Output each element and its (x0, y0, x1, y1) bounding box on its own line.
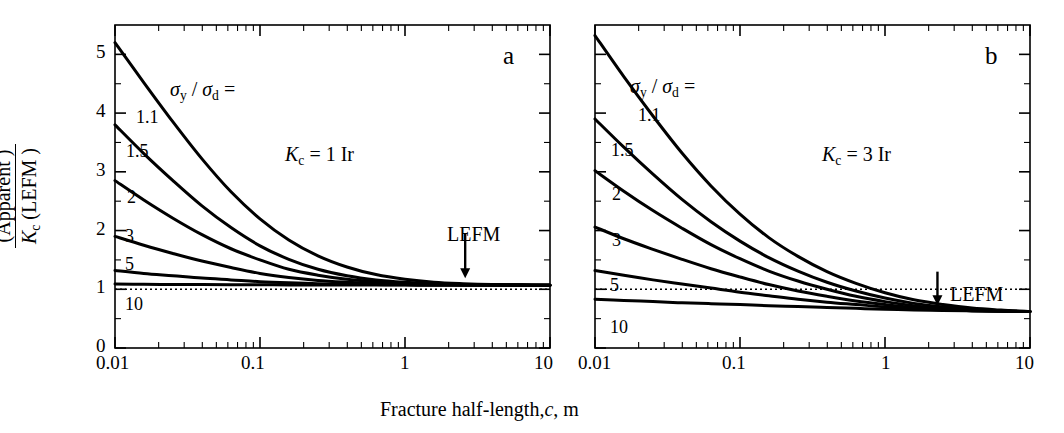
panel-a-xtick-1: 0.1 (241, 352, 265, 374)
panel-a-legend-title: σy / σd = (170, 78, 235, 104)
panel-b-arrow-label: LEFM (950, 283, 1003, 306)
panel-a-xtick-2: 1 (400, 352, 410, 374)
figure-container: Kα (Apparent ) Kc (LEFM ) Fracture half-… (0, 0, 1064, 433)
panel-b-label: b (985, 42, 998, 70)
panel-b-annotation: Kc = 3 Ir (822, 143, 891, 169)
y-axis-numerator: Kα (Apparent ) (0, 144, 15, 248)
panel-a-curve-label-2: 2 (127, 187, 136, 208)
panel-b-curve-label-1: 1.5 (611, 140, 634, 161)
panel-b-xtick-3: 10 (1015, 352, 1034, 374)
panel-a-curve-label-4: 5 (125, 254, 134, 275)
panel-a-ytick-1: 1 (96, 276, 106, 298)
y-axis-label: Kα (Apparent ) Kc (LEFM ) (0, 144, 44, 248)
panel-a-curve-label-1: 1.5 (126, 141, 149, 162)
panel-a-xtick-3: 10 (534, 352, 553, 374)
panel-b-xtick-0: 0.01 (578, 352, 611, 374)
panel-b-xtick-1: 0.1 (722, 352, 746, 374)
panel-b-curve-label-2: 2 (612, 184, 621, 205)
panel-b-curve-label-3: 3 (612, 230, 621, 251)
panel-a-curve-label-0: 1.1 (136, 107, 159, 128)
panel-a-ytick-4: 4 (96, 100, 106, 122)
panel-b-curve-label-5: 10 (610, 317, 628, 338)
panel-a-plot (95, 15, 565, 415)
panel-a-arrow-label: LEFM (447, 223, 500, 246)
panel-a-ytick-5: 5 (96, 41, 106, 63)
panel-a-curve-label-3: 3 (125, 226, 134, 247)
panel-a-ytick-2: 2 (96, 218, 106, 240)
panel-a-ytick-3: 3 (96, 159, 106, 181)
panel-a-annotation: Kc = 1 Ir (285, 143, 354, 169)
y-axis-denominator: Kc (LEFM ) (15, 144, 44, 248)
panel-b-curve-label-0: 1.1 (638, 105, 661, 126)
panel-b-xtick-2: 1 (881, 352, 891, 374)
panel-a-curve-label-5: 10 (125, 294, 143, 315)
panel-b-curve-label-4: 5 (610, 275, 619, 296)
panel-a-label: a (503, 42, 514, 70)
panel-a-ytick-0: 0 (96, 335, 106, 357)
panel-b-legend-title: σy / σd = (630, 75, 695, 101)
